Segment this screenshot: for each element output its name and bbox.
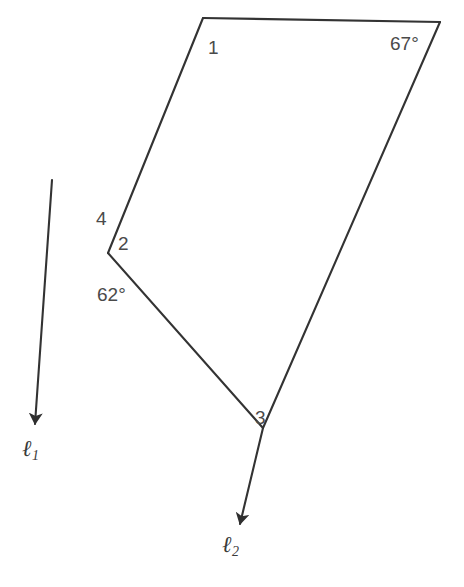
line-l1-name: ℓ: [22, 436, 32, 461]
line-l2-name: ℓ: [222, 532, 232, 557]
segment-top-edge: [203, 18, 440, 22]
angle-label-67-degrees: 67°: [390, 34, 419, 53]
geometry-figure: 1 67° 4 2 62° 3 ℓ1 ℓ2: [0, 0, 464, 587]
segment-left-edge: [108, 18, 203, 253]
segment-right-edge: [263, 22, 440, 428]
diagram-canvas: [0, 0, 464, 587]
line-label-l1: ℓ1: [22, 437, 39, 463]
line-l2-subscript: 2: [232, 544, 240, 559]
angle-label-3: 3: [255, 408, 266, 427]
angle-label-62-degrees: 62°: [97, 285, 126, 304]
line-l1-ray: [35, 180, 52, 424]
line-label-l2: ℓ2: [222, 533, 239, 559]
angle-label-2: 2: [118, 234, 129, 253]
angle-label-1: 1: [208, 38, 219, 57]
segment-l2-middle: [108, 253, 263, 428]
ray-l2-arrow: [240, 428, 263, 524]
line-l1-subscript: 1: [32, 448, 40, 463]
angle-label-4: 4: [96, 209, 107, 228]
